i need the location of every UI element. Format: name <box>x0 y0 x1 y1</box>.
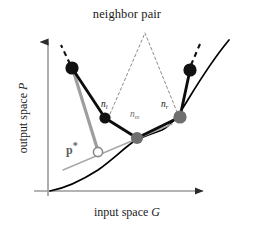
x-axis-label-text: input space <box>94 205 148 219</box>
node-top-right[interactable] <box>183 63 196 76</box>
figure-canvas <box>0 0 254 231</box>
manifold-curve-group <box>50 40 229 191</box>
projection-segment-group <box>73 70 98 151</box>
label-mid-neighbor-subscript: m <box>135 113 140 120</box>
label-mid-neighbor: nm <box>130 110 139 120</box>
triangle-left-edge <box>110 33 145 114</box>
label-projection-point: p* <box>66 141 78 156</box>
label-left-neighbor: nl <box>101 100 108 110</box>
label-projection-point-base: p <box>66 143 73 157</box>
figure-container: neighbor pair input spaceG output spaceP… <box>0 0 254 231</box>
polyline-dash-extension-left <box>61 45 70 64</box>
y-axis-label-text: output space <box>16 93 30 153</box>
label-right-neighbor: nr <box>161 100 168 110</box>
label-left-neighbor-subscript: l <box>106 103 108 110</box>
x-axis-label: input spaceG <box>0 206 254 218</box>
node-mid-nm[interactable] <box>131 132 143 144</box>
node-projection-pstar[interactable] <box>93 147 102 156</box>
y-axis-variable: P <box>16 83 30 93</box>
tangent-guide-line <box>63 124 172 170</box>
tangent-guide-group <box>63 124 172 170</box>
label-right-neighbor-subscript: r <box>166 103 169 110</box>
node-left-nl[interactable] <box>99 112 110 123</box>
y-axis-label: output spaceP <box>17 48 29 188</box>
polyline-extensions-group <box>61 44 200 65</box>
node-right-nr[interactable] <box>173 110 186 123</box>
projection-segment <box>73 70 98 151</box>
node-top-left[interactable] <box>65 61 78 74</box>
figure-title: neighbor pair <box>0 8 254 21</box>
label-projection-point-star: * <box>73 140 78 151</box>
manifold-curve <box>50 40 229 191</box>
x-axis-variable: G <box>148 205 160 219</box>
polyline-dash-extension-right <box>191 44 200 65</box>
